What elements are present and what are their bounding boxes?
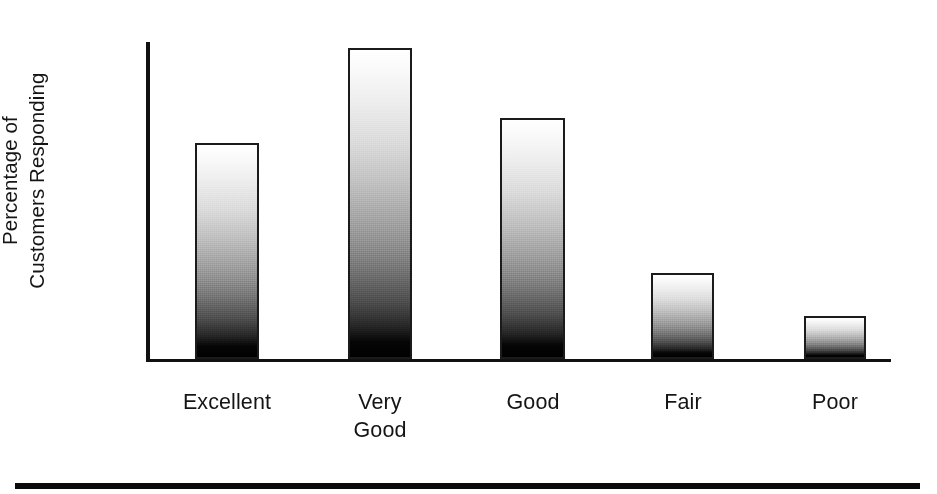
- x-axis-line: [146, 359, 891, 362]
- x-axis-tick-labels: Excellent Very Good Good Fair Poor: [148, 388, 891, 458]
- x-tick-label-poor: Poor: [773, 388, 897, 416]
- plot-area: [148, 40, 891, 359]
- x-tick-label-good: Good: [471, 388, 595, 416]
- bar-excellent: [195, 143, 259, 359]
- bottom-divider-rule: [15, 483, 920, 489]
- bar-fair: [651, 273, 714, 359]
- bar-good: [500, 118, 565, 359]
- bar-very-good: [348, 48, 412, 359]
- bar-poor: [804, 316, 866, 359]
- chart-figure: Percentage of Customers Responding Excel…: [0, 0, 937, 494]
- x-tick-label-excellent: Excellent: [165, 388, 289, 416]
- x-tick-label-fair: Fair: [621, 388, 745, 416]
- y-axis-label-container: Percentage of Customers Responding: [0, 0, 148, 362]
- y-axis-label: Percentage of Customers Responding: [0, 73, 51, 289]
- y-axis-label-line-1: Percentage of: [0, 73, 24, 289]
- y-axis-label-line-2: Customers Responding: [24, 73, 51, 289]
- x-tick-label-very-good: Very Good: [318, 388, 442, 445]
